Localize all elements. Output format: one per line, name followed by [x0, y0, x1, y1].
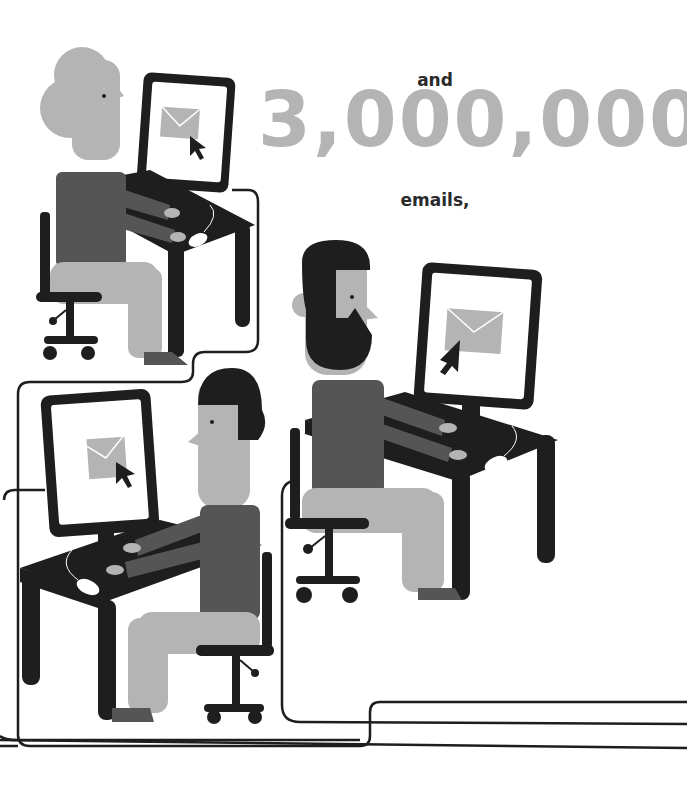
worker-man-short-hair: [20, 368, 274, 724]
envelope-icon: [160, 107, 200, 140]
headline-suffix: emails,: [370, 190, 500, 210]
worker-bearded-man: [285, 240, 558, 603]
headline-number: 3,000,000: [258, 82, 678, 158]
worker-woman: [36, 47, 255, 365]
infographic-canvas: and 3,000,000 emails,: [0, 0, 687, 798]
